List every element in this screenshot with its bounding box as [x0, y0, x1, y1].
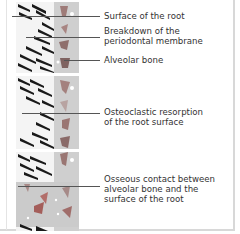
label-alveolar-bone: Alveolar bone	[104, 55, 163, 65]
figure-left-edge	[6, 0, 7, 230]
histology-panel-bottom	[16, 152, 79, 231]
label-osseous-contact: Osseous contact between alveolar bone an…	[104, 174, 215, 204]
leader-line-alveolar-bone	[64, 60, 100, 61]
leader-line-osseous-contact	[18, 186, 100, 187]
label-osteoclastic-resorption: Osteoclastic resorption of the root surf…	[104, 107, 203, 127]
leader-line-breakdown-pdl	[26, 37, 100, 38]
label-breakdown-periodontal-membrane: Breakdown of the periodontal membrane	[104, 26, 203, 46]
osseous-contact-illustration	[16, 152, 79, 231]
label-surface-of-root: Surface of the root	[104, 11, 185, 21]
leader-line-surface-root	[12, 16, 100, 17]
leader-line-osteoclastic	[22, 113, 100, 114]
